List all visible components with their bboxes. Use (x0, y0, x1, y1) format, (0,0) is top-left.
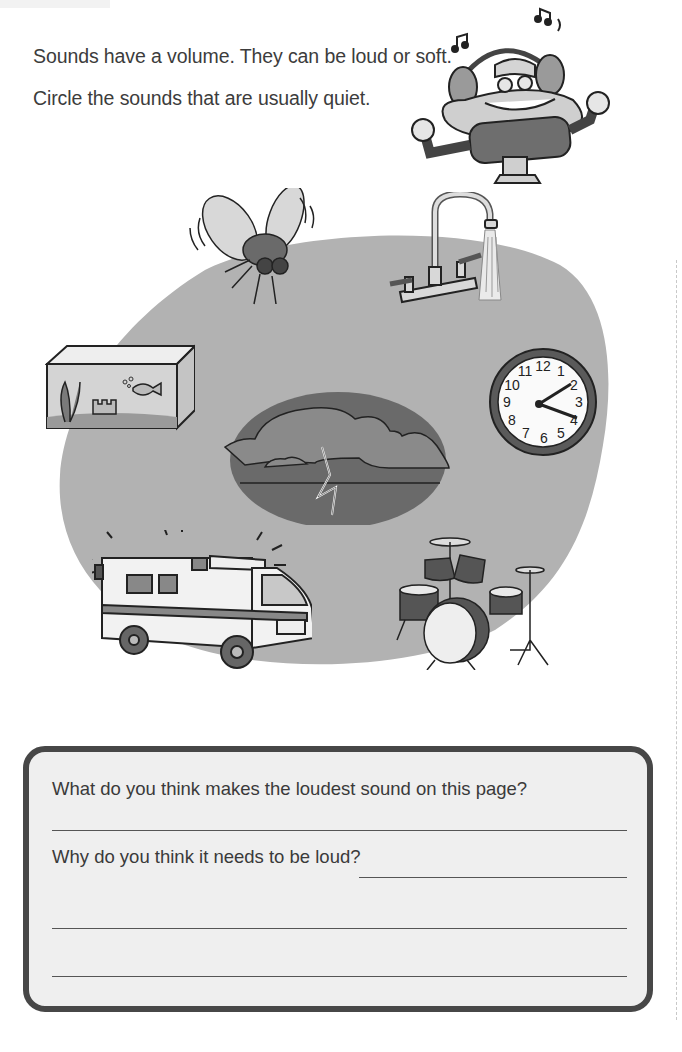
faucet-icon (385, 192, 505, 310)
answer-line-4[interactable] (52, 976, 627, 977)
answer-line-1[interactable] (52, 830, 627, 831)
instruction-line-1: Sounds have a volume. They can be loud o… (33, 45, 452, 68)
scan-artifact (0, 0, 110, 8)
svg-text:6: 6 (540, 430, 548, 446)
ambulance-icon (92, 530, 312, 670)
svg-text:7: 7 (522, 425, 530, 441)
svg-text:1: 1 (557, 363, 565, 379)
answer-line-2[interactable] (359, 877, 627, 878)
boombox-character-icon (395, 5, 610, 185)
question-1: What do you think makes the loudest soun… (52, 778, 527, 800)
wall-clock-icon: 1212 345 678 91011 (487, 346, 599, 458)
thunderstorm-icon (220, 385, 452, 525)
question-box: What do you think makes the loudest soun… (23, 746, 653, 1012)
answer-line-3[interactable] (52, 928, 627, 929)
drum-kit-icon (395, 530, 555, 670)
svg-text:3: 3 (575, 394, 583, 410)
question-2: Why do you think it needs to be loud? (52, 846, 361, 868)
svg-text:5: 5 (557, 425, 565, 441)
page-edge-divider (676, 260, 677, 1020)
svg-text:11: 11 (518, 363, 533, 379)
svg-text:8: 8 (508, 412, 516, 428)
svg-text:12: 12 (535, 358, 551, 374)
svg-text:9: 9 (503, 394, 511, 410)
fish-tank-icon (45, 342, 195, 432)
instruction-line-2: Circle the sounds that are usually quiet… (33, 87, 370, 110)
svg-text:10: 10 (504, 377, 520, 393)
fly-icon (180, 188, 320, 313)
